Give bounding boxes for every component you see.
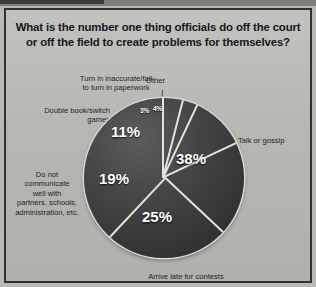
slice-label-talk-or-gossip: Talk or gossip	[238, 136, 302, 145]
pie-chart: 38% 25% 19% 11% 3% 4%	[84, 98, 244, 258]
chart-screenshot: What is the number one thing officials d…	[0, 0, 316, 287]
pie-separator-0deg	[162, 98, 164, 178]
pie-value-double-book: 11%	[111, 123, 140, 140]
pie-value-talk-or-gossip: 38%	[176, 150, 206, 167]
scan-top-strip-dark	[0, 0, 104, 4]
chart-panel: What is the number one thing officials d…	[4, 8, 312, 283]
chart-title: What is the number one thing officials d…	[14, 20, 302, 50]
pie-value-other: 4%	[153, 105, 162, 112]
pie-value-do-not-communicate: 19%	[99, 170, 129, 187]
pie-value-paperwork: 3%	[140, 107, 149, 114]
slice-label-arrive-late: Arrive late for contests	[126, 272, 246, 281]
slice-label-other: Other	[146, 76, 180, 85]
chart-title-line-2: or off the field to create problems for …	[14, 35, 302, 50]
slice-label-do-not-communicate: Do not communicate well with partners, s…	[12, 170, 82, 217]
chart-title-line-1: What is the number one thing officials d…	[14, 20, 302, 35]
pie-value-arrive-late: 25%	[142, 208, 172, 225]
